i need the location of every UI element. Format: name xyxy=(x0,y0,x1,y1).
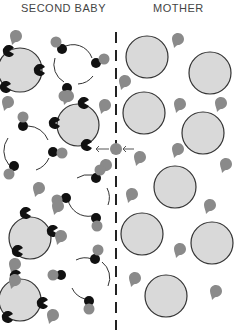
antigen-drop-icon xyxy=(10,30,22,45)
antigen-drop-icon xyxy=(62,90,74,105)
open-ring-cell xyxy=(52,165,110,232)
coated-red-cell xyxy=(0,45,45,93)
crossing-drop-icon xyxy=(110,143,122,155)
diagram-canvas xyxy=(0,0,249,333)
arrow-left-icon xyxy=(96,146,109,152)
coated-red-cell xyxy=(9,207,58,259)
baby-side xyxy=(0,30,112,324)
antigen-drop-icon xyxy=(52,200,64,215)
open-ring-cell xyxy=(48,245,110,315)
antibody-crossing xyxy=(96,143,134,155)
arrow-left-icon xyxy=(123,146,134,152)
mother-side xyxy=(119,33,233,317)
coated-red-cell xyxy=(0,270,48,323)
antigen-drop-icon xyxy=(99,99,111,114)
antigen-drop-icon xyxy=(55,230,67,245)
coated-red-cell xyxy=(49,97,99,151)
antigen-drop-icon xyxy=(2,96,14,111)
open-ring-cell xyxy=(51,37,110,102)
antigen-drop-icon xyxy=(47,309,59,324)
antigen-drop-icon xyxy=(33,182,45,197)
